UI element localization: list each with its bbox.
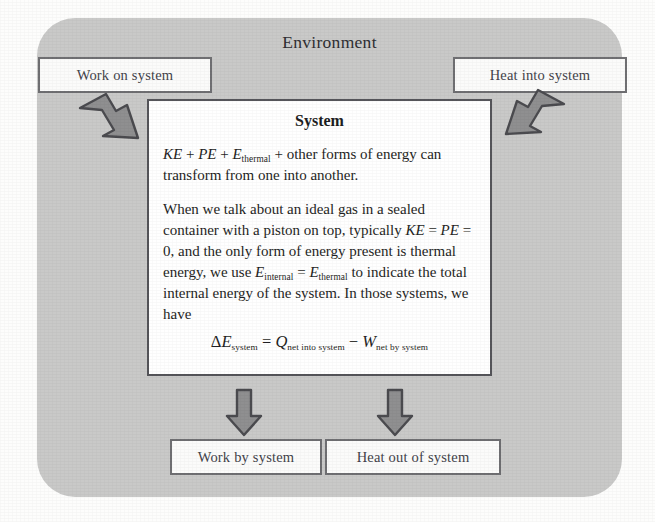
paragraph-energy-forms: KE + PE + Ethermal + other forms of ener… [163, 144, 476, 186]
first-law-equation: ΔEsystem = Qnet into system − Wnet by sy… [163, 332, 476, 352]
heat-out-arrow-icon [373, 388, 417, 438]
equation-minus: − [345, 332, 363, 351]
work-out-arrow-icon [222, 388, 266, 438]
work-by-system-label: Work by system [198, 449, 295, 466]
delta-symbol: Δ [211, 332, 222, 351]
paragraph-spacer [163, 186, 476, 199]
equals-1: = [425, 222, 441, 238]
heat-into-system-label: Heat into system [490, 67, 591, 84]
heat-in-arrow-icon [496, 88, 568, 146]
diagram-page: Environment Work on system Heat into sys… [0, 0, 655, 522]
work-in-arrow-icon [76, 92, 148, 150]
plus-2: + [216, 146, 232, 162]
var-e-thermal-2: E [309, 264, 318, 280]
work-on-system-box[interactable]: Work on system [38, 57, 212, 93]
paragraph-ideal-gas: When we talk about an ideal gas in a sea… [163, 199, 476, 325]
sub-net-into-system: net into system [287, 342, 344, 352]
paragraph2-lead: When we talk about an ideal gas in a sea… [163, 201, 425, 238]
equals-2: = [293, 264, 309, 280]
sub-thermal-1: thermal [242, 154, 271, 164]
var-e-system: E [221, 332, 231, 351]
var-pe-2: PE [441, 222, 459, 238]
work-on-system-label: Work on system [77, 67, 174, 84]
equation-equals: = [258, 332, 276, 351]
var-ke-2: KE [405, 222, 424, 238]
environment-label: Environment [37, 32, 622, 53]
plus-1: + [182, 146, 198, 162]
work-by-system-box[interactable]: Work by system [170, 439, 322, 475]
heat-out-of-system-label: Heat out of system [357, 449, 470, 466]
system-title: System [163, 112, 476, 130]
sub-thermal-2: thermal [319, 272, 348, 282]
sub-system: system [232, 342, 258, 352]
var-e-internal: E [255, 264, 264, 280]
var-e-thermal: E [232, 146, 241, 162]
sub-internal: internal [264, 272, 293, 282]
system-container: System KE + PE + Ethermal + other forms … [147, 99, 492, 376]
var-q: Q [275, 332, 287, 351]
var-pe-1: PE [198, 146, 216, 162]
heat-out-of-system-box[interactable]: Heat out of system [325, 439, 501, 475]
var-ke-1: KE [163, 146, 182, 162]
var-w: W [362, 332, 376, 351]
sub-net-by-system: net by system [376, 342, 428, 352]
